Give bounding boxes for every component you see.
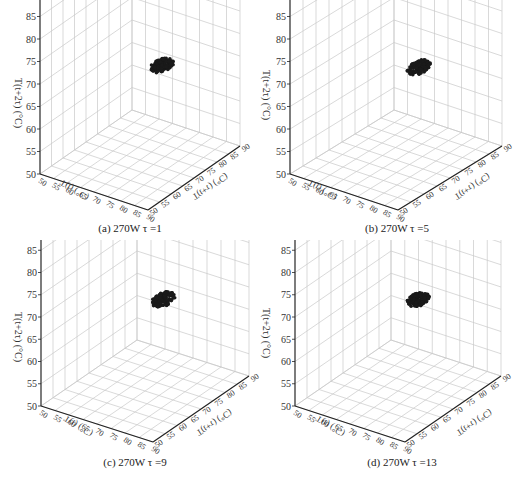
data-point [422, 62, 426, 66]
y-tick-label: 85 [237, 380, 249, 392]
y-tick-label: 90 [249, 372, 261, 384]
data-point [409, 305, 413, 309]
x-tick-label: 80 [374, 435, 386, 447]
y-tick-label: 85 [228, 150, 240, 162]
x-tick-label: 70 [347, 426, 359, 438]
y-tick-label: 75 [463, 166, 475, 178]
z-tick-label: 85 [276, 11, 286, 22]
3d-scatter-plot: 5050505555556060606565657070707575758080… [0, 0, 261, 239]
y-tick-label: 75 [465, 396, 477, 408]
data-point [161, 57, 165, 61]
data-point [152, 304, 156, 308]
data-point [170, 62, 174, 66]
data-point [159, 301, 163, 305]
y-tick-label: 75 [213, 396, 225, 408]
data-point-cluster [151, 290, 177, 309]
z-tick-label: 85 [281, 245, 291, 256]
data-point [409, 70, 413, 74]
data-point [418, 63, 422, 67]
x-tick-label: 70 [94, 426, 106, 438]
z-tick-label: 50 [276, 169, 286, 180]
3d-scatter-plot: 5050505555556060606565657070707575758080… [262, 0, 523, 239]
y-tick-label: 65 [441, 413, 453, 425]
y-tick-label: 70 [450, 174, 462, 186]
data-point [428, 62, 432, 66]
y-tick-label: 55 [417, 429, 429, 441]
z-tick-label: 70 [276, 79, 286, 90]
x-tick-label: 80 [368, 203, 380, 215]
y-tick-label: 90 [502, 142, 514, 154]
data-point [156, 305, 160, 309]
data-point [156, 59, 160, 63]
data-point [164, 65, 168, 69]
data-point [427, 296, 431, 300]
y-tick-label: 60 [171, 190, 183, 202]
x-tick-label: 70 [341, 194, 353, 206]
z-tick-label: 70 [27, 312, 37, 323]
y-tick-label: 55 [159, 198, 171, 210]
z-tick-label: 60 [276, 124, 286, 135]
z-tick-label: 85 [26, 11, 36, 22]
y-tick-label: 80 [217, 158, 229, 170]
data-point [415, 66, 419, 70]
z-tick-label: 60 [26, 124, 36, 135]
panel-c: 5050505555556060606565657070707575758080… [0, 240, 261, 479]
z-tick-label: 65 [276, 101, 286, 112]
z-tick-label: 55 [276, 146, 286, 157]
x-tick-label: 50 [287, 176, 299, 188]
x-tick-label: 50 [37, 176, 49, 188]
data-point [170, 299, 174, 303]
data-point [419, 68, 423, 72]
y-tick-label: 60 [177, 421, 189, 433]
data-point-cluster [406, 291, 431, 308]
x-tick-label: 80 [122, 435, 134, 447]
z-tick-label: 75 [281, 289, 291, 300]
data-point [160, 69, 164, 73]
z-axis-label: T(t+2τ) (°C) [261, 70, 272, 120]
x-tick-label: 50 [292, 408, 304, 420]
data-point [150, 68, 154, 72]
z-axis-label: T(t+2τ) (°C) [261, 308, 272, 358]
data-point [166, 299, 170, 303]
z-tick-label: 80 [26, 34, 36, 45]
data-point [417, 72, 421, 76]
x-tick-label: 85 [131, 208, 143, 220]
panel-b: 5050505555556060606565657070707575758080… [262, 0, 523, 239]
z-tick-label: 65 [26, 101, 36, 112]
data-point [418, 294, 422, 298]
z-tick-label: 70 [26, 79, 36, 90]
z-tick-label: 60 [281, 356, 291, 367]
panel-caption: (b) 270W τ =5 [365, 222, 429, 234]
data-point [150, 63, 154, 67]
y-tick-label: 60 [429, 421, 441, 433]
x-tick-label: 75 [104, 199, 116, 211]
x-tick-label: 85 [381, 208, 393, 220]
data-point [414, 70, 418, 74]
y-tick-label: 60 [424, 190, 436, 202]
3d-scatter-plot: 5050505555556060606565657070707575758080… [0, 240, 261, 479]
y-tick-label: 70 [453, 405, 465, 417]
data-point [408, 65, 412, 69]
z-tick-label: 50 [26, 169, 36, 180]
data-point [153, 66, 157, 70]
z-tick-label: 75 [27, 289, 37, 300]
z-tick-label: 55 [26, 146, 36, 157]
z-tick-label: 55 [281, 378, 291, 389]
data-point-cluster [150, 56, 175, 74]
z-tick-label: 65 [27, 334, 37, 345]
data-point [160, 64, 164, 68]
data-point-cluster [406, 58, 432, 76]
panel-a: 5050505555556060606565657070707575758080… [0, 0, 261, 239]
x-tick-label: 85 [388, 440, 400, 452]
z-tick-label: 80 [27, 267, 37, 278]
y-tick-label: 80 [476, 158, 488, 170]
y-tick-label: 55 [165, 429, 177, 441]
x-tick-label: 75 [361, 431, 373, 443]
panel-d: 5050505555556060606565657070707575758080… [262, 240, 523, 479]
x-tick-label: 85 [136, 440, 148, 452]
data-point [166, 302, 170, 306]
y-tick-label: 85 [489, 380, 501, 392]
panel-caption: (d) 270W τ =13 [367, 456, 436, 468]
3d-scatter-plot: 5050505555556060606565657070707575758080… [262, 240, 523, 479]
z-tick-label: 70 [281, 312, 291, 323]
